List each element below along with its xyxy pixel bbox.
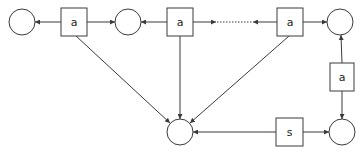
petri-net-diagram: a a a a s: [0, 0, 361, 151]
place-p2: [115, 9, 141, 35]
place-p5: [167, 119, 193, 145]
edge-t4-to-p3: [341, 35, 342, 63]
transition-t1-label: a: [71, 16, 78, 29]
transition-t2: a: [167, 8, 193, 36]
transition-t5: s: [276, 118, 303, 146]
edge-t3-to-p5: [190, 36, 289, 123]
transition-t5-label: s: [287, 126, 293, 139]
transition-t3-label: a: [287, 16, 294, 29]
place-p3: [327, 9, 353, 35]
edge-t1-to-p5: [76, 36, 170, 123]
place-p1: [9, 9, 35, 35]
place-p4: [329, 119, 355, 145]
transition-t4-label: a: [339, 71, 346, 84]
transition-t4: a: [330, 63, 354, 91]
transition-t1: a: [61, 8, 87, 36]
transition-t3: a: [277, 8, 303, 36]
transition-t2-label: a: [177, 16, 184, 29]
